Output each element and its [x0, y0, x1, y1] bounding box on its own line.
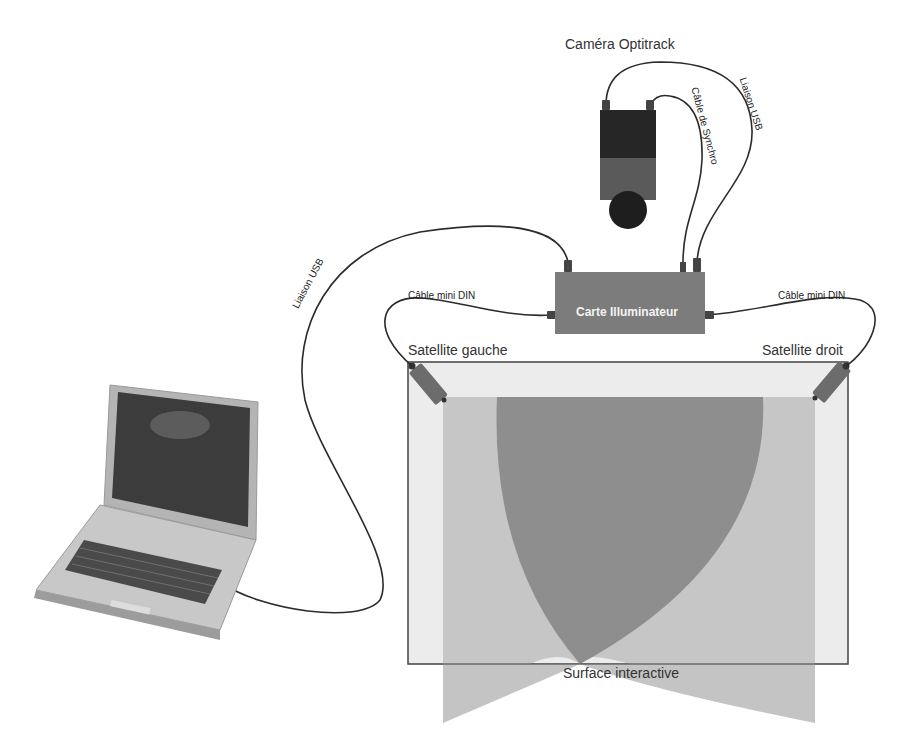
- camera-label: Caméra Optitrack: [565, 36, 675, 52]
- illuminator-board: [555, 272, 705, 334]
- illumination-zones: [408, 362, 848, 752]
- optitrack-camera: [600, 110, 656, 229]
- laptop: [34, 385, 258, 640]
- illuminator-board-label: Carte Illuminateur: [576, 305, 678, 319]
- satellite-right-label: Satellite droit: [762, 342, 843, 358]
- surface-label: Surface interactive: [563, 665, 679, 681]
- system-diagram: Caméra Optitrack Carte Illuminateur Sate…: [0, 0, 911, 752]
- cable-mini-din-left-label: Câble mini DIN: [408, 290, 475, 301]
- cable-mini-din-right-label: Câble mini DIN: [778, 290, 845, 301]
- satellite-left-label: Satellite gauche: [408, 342, 508, 358]
- cable-camera-sync: [650, 96, 702, 263]
